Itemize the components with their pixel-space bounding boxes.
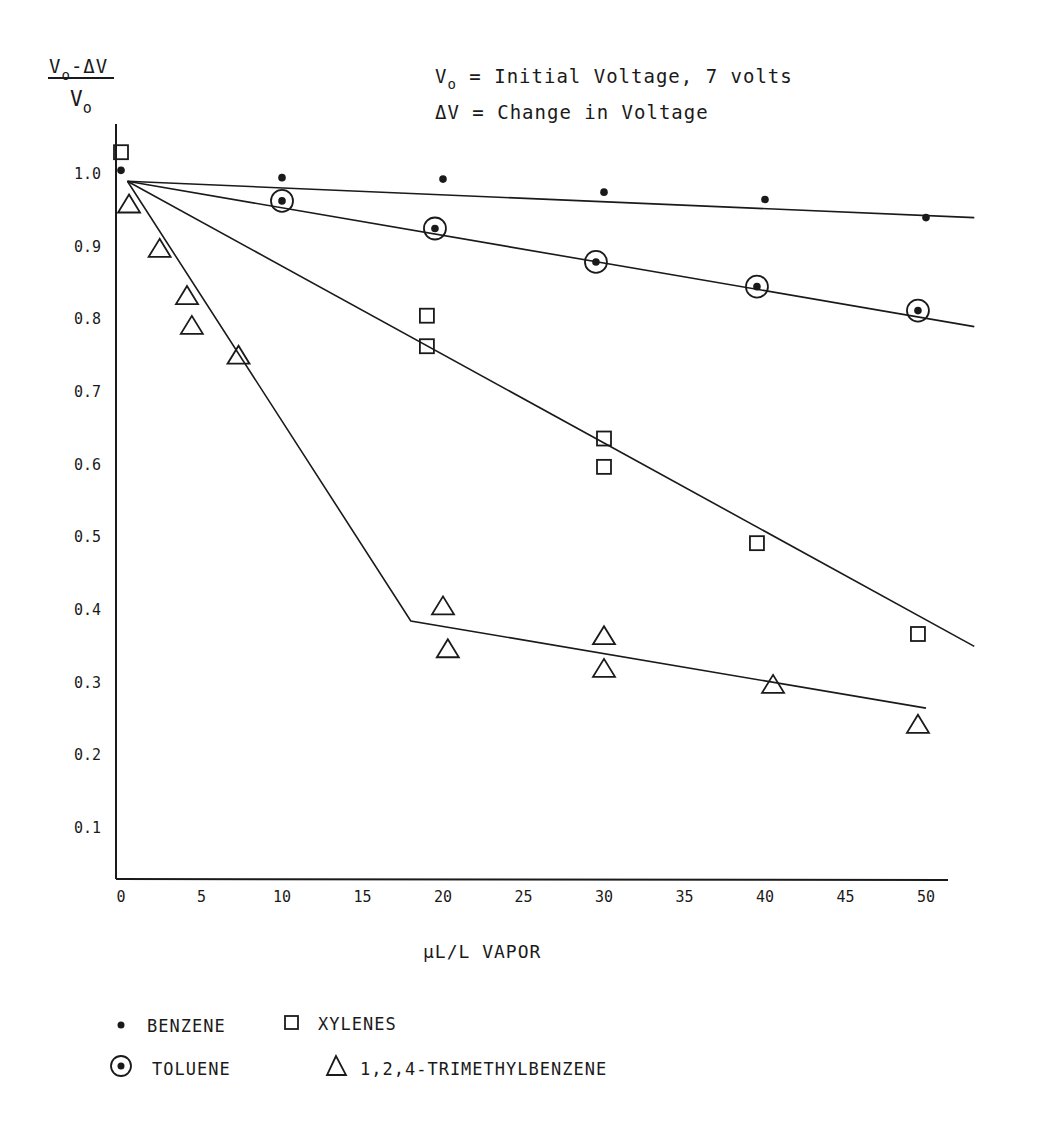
xylenes-point (750, 536, 764, 550)
y-tick-label: 1.0 (74, 165, 101, 183)
y-tick-label: 0.2 (74, 746, 101, 764)
x-tick-label: 50 (917, 888, 935, 906)
benzene-point (600, 188, 608, 196)
fit-line-circled-dot (127, 181, 974, 326)
annotation-initial-voltage: Vo = Initial Voltage, 7 volts (435, 65, 793, 92)
trimethylbenzene-point (432, 596, 454, 614)
benzene-point (761, 196, 769, 204)
toluene-point (585, 251, 607, 273)
y-tick-label: 0.8 (74, 310, 101, 328)
square-marker-icon (285, 1016, 298, 1029)
legend: BENZENE XYLENES TOLUENE 1,2,4-TRIMETHYLB… (111, 1014, 607, 1079)
trimethylbenzene-point (907, 715, 929, 733)
xylenes-point (420, 309, 434, 323)
dot-marker-icon (118, 1022, 125, 1029)
y-tick-label: 0.7 (74, 383, 101, 401)
legend-item-xylenes: XYLENES (285, 1014, 397, 1034)
y-axis-label: Vo-ΔV Vo (48, 55, 114, 117)
benzene-point (278, 174, 286, 182)
annotation-change-voltage: ΔV = Change in Voltage (435, 101, 709, 123)
x-tick-labels: 05101520253035404550 (116, 888, 935, 906)
fit-line-square (127, 181, 974, 646)
benzene-point (439, 175, 447, 183)
x-axis-label: μL/L VAPOR (423, 941, 541, 962)
y-tick-label: 0.9 (74, 238, 101, 256)
svg-text:XYLENES: XYLENES (318, 1014, 397, 1034)
toluene-point (424, 218, 446, 240)
trimethylbenzene-point (593, 626, 615, 644)
fit-lines (127, 181, 974, 708)
annotation-block: Vo = Initial Voltage, 7 volts ΔV = Chang… (435, 65, 793, 123)
y-tick-label: 0.4 (74, 601, 101, 619)
y-tick-label: 0.1 (74, 819, 101, 837)
svg-text:TOLUENE: TOLUENE (152, 1059, 231, 1079)
fit-line-dot (127, 181, 974, 217)
x-tick-label: 45 (836, 888, 854, 906)
trimethylbenzene-point (181, 316, 203, 334)
benzene-point (117, 167, 125, 175)
svg-text:1,2,4-TRIMETHYLBENZENE: 1,2,4-TRIMETHYLBENZENE (360, 1059, 607, 1079)
legend-item-toluene: TOLUENE (111, 1056, 231, 1079)
chart: Vo-ΔV Vo Vo = Initial Voltage, 7 volts Δ… (0, 0, 1039, 1130)
trimethylbenzene-point (118, 195, 140, 213)
y-tick-labels: 1.00.90.80.70.60.50.40.30.20.1 (74, 165, 101, 837)
x-tick-label: 40 (756, 888, 774, 906)
y-tick-label: 0.3 (74, 674, 101, 692)
trimethylbenzene-point (437, 639, 459, 657)
fit-line-triangle (127, 181, 926, 708)
toluene-point (907, 300, 929, 322)
x-tick-label: 20 (434, 888, 452, 906)
y-tick-label: 0.6 (74, 456, 101, 474)
toluene-point (746, 276, 768, 298)
legend-item-benzene: BENZENE (118, 1016, 226, 1036)
xylenes-point (597, 460, 611, 474)
benzene-point (922, 214, 930, 222)
x-tick-label: 0 (116, 888, 125, 906)
x-tick-label: 10 (273, 888, 291, 906)
svg-text:BENZENE: BENZENE (147, 1016, 226, 1036)
y-label-denominator: Vo (70, 87, 92, 117)
x-tick-label: 35 (675, 888, 693, 906)
trimethylbenzene-point (176, 286, 198, 304)
xylenes-point (911, 627, 925, 641)
trimethylbenzene-point (149, 239, 171, 257)
x-tick-label: 25 (514, 888, 532, 906)
legend-item-trimethylbenzene: 1,2,4-TRIMETHYLBENZENE (327, 1056, 607, 1079)
x-tick-label: 15 (353, 888, 371, 906)
x-tick-label: 30 (595, 888, 613, 906)
x-tick-label: 5 (197, 888, 206, 906)
y-tick-label: 0.5 (74, 528, 101, 546)
trimethylbenzene-point (593, 659, 615, 677)
x-axis-line (116, 879, 948, 880)
data-points (114, 145, 930, 733)
triangle-marker-icon (327, 1056, 346, 1075)
